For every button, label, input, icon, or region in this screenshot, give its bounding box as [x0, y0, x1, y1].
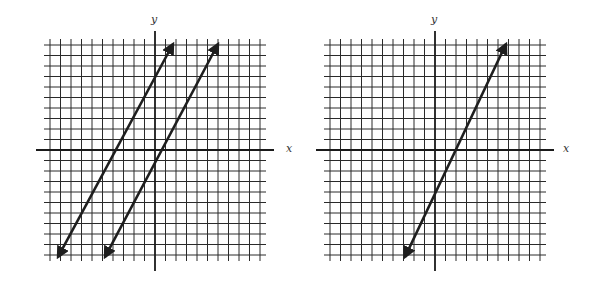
right-y-axis-label: y [431, 13, 437, 26]
left-y-axis-label: y [151, 13, 157, 26]
left-x-axis-label: x [286, 142, 292, 155]
right-x-axis-label: x [563, 142, 569, 155]
coordinate-graphs [0, 0, 591, 287]
